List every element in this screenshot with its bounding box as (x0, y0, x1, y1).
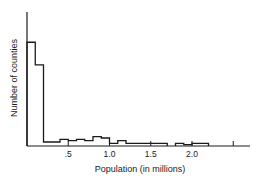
axes (27, 12, 250, 146)
x-axis-label: Population (in millions) (95, 164, 186, 174)
y-axis-label: Number of counties (9, 38, 19, 117)
x-tick-label: .5 (65, 149, 72, 159)
x-tick-label: 1.5 (145, 149, 157, 159)
histogram-outline (27, 42, 209, 146)
x-tick-labels: .51.01.52.0 (65, 149, 198, 159)
x-tick-label: 1.0 (104, 149, 116, 159)
x-tick-label: 2.0 (186, 149, 198, 159)
histogram-chart: .51.01.52.0 Population (in millions) Num… (0, 0, 260, 186)
